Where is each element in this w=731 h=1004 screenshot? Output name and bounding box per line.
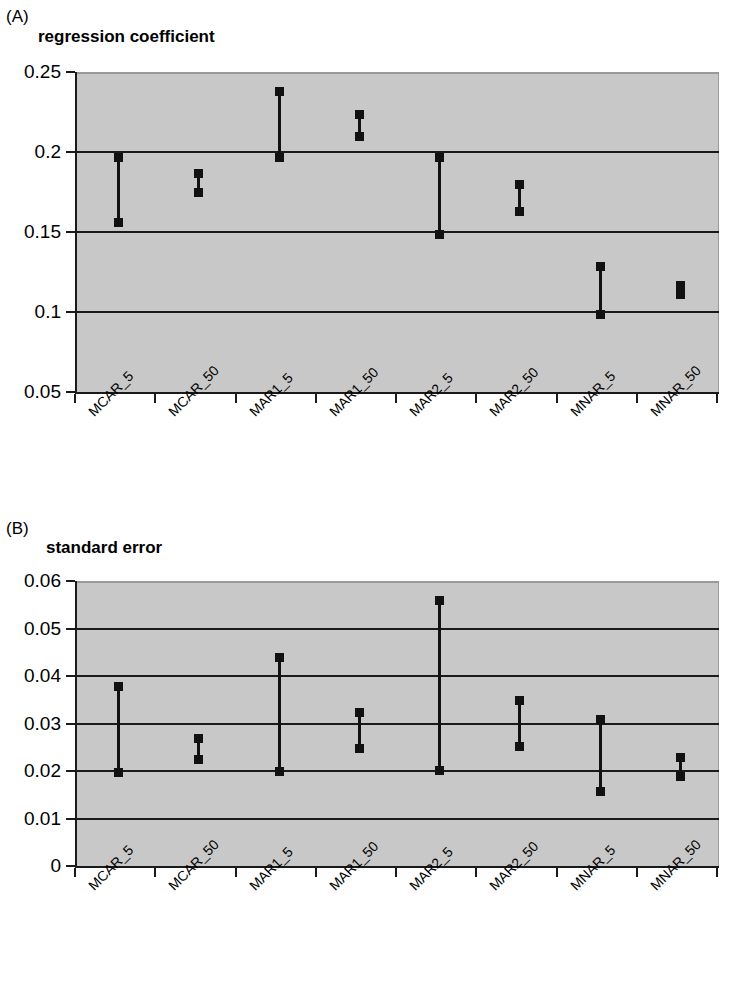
upper-marker [275, 87, 284, 96]
y-axis-tick-label: 0.15 [0, 222, 61, 241]
x-axis-tick-mark [395, 394, 397, 403]
y-axis-tick-mark [66, 580, 75, 582]
x-axis-tick-mark [154, 868, 156, 877]
plot-area-a [75, 72, 719, 394]
gridline [77, 151, 719, 153]
y-axis-tick-label: 0.05 [0, 382, 61, 401]
plot-area-b [75, 581, 719, 868]
gridline [77, 231, 719, 233]
x-axis-tick-mark [716, 868, 718, 877]
gridline [77, 818, 719, 820]
lower-marker [676, 772, 685, 781]
lower-marker [515, 207, 524, 216]
y-axis-tick-mark [66, 71, 75, 73]
panel-a: (A) regression coefficient 0.050.10.150.… [0, 0, 731, 505]
x-axis-tick-mark [315, 868, 317, 877]
lower-marker [194, 188, 203, 197]
lower-marker [275, 767, 284, 776]
y-axis-tick-label: 0.05 [0, 619, 61, 638]
range-stem [438, 600, 441, 770]
range-stem [518, 700, 521, 747]
x-axis-tick-mark [74, 394, 76, 403]
x-axis-tick-mark [475, 868, 477, 877]
range-stem [599, 266, 602, 314]
y-axis-tick-mark [66, 391, 75, 393]
lower-marker [515, 742, 524, 751]
gridline [77, 628, 719, 630]
upper-marker [435, 153, 444, 162]
y-axis-tick-label: 0.04 [0, 666, 61, 685]
lower-marker [676, 290, 685, 299]
x-axis-tick-mark [235, 394, 237, 403]
upper-marker [194, 169, 203, 178]
upper-marker [515, 180, 524, 189]
y-axis-tick-label: 0.2 [0, 142, 61, 161]
y-axis-tick-label: 0.02 [0, 761, 61, 780]
lower-marker [114, 218, 123, 227]
upper-marker [275, 653, 284, 662]
lower-marker [114, 768, 123, 777]
x-axis-tick-mark [636, 868, 638, 877]
panel-a-title: regression coefficient [38, 27, 215, 47]
upper-marker [676, 753, 685, 762]
y-axis-tick-label: 0.1 [0, 302, 61, 321]
lower-marker [435, 230, 444, 239]
y-axis-tick-mark [66, 675, 75, 677]
y-axis-tick-mark [66, 865, 75, 867]
y-axis-tick-mark [66, 311, 75, 313]
range-stem [278, 657, 281, 771]
x-axis-tick-mark [235, 868, 237, 877]
gridline [77, 770, 719, 772]
lower-marker [194, 755, 203, 764]
y-axis-tick-mark [66, 151, 75, 153]
range-stem [438, 157, 441, 234]
panel-a-letter: (A) [6, 7, 29, 27]
y-axis-tick-label: 0.03 [0, 714, 61, 733]
upper-marker [355, 708, 364, 717]
upper-marker [194, 734, 203, 743]
range-stem [358, 712, 361, 749]
x-axis-tick-mark [315, 394, 317, 403]
y-axis-tick-mark [66, 818, 75, 820]
range-stem [599, 719, 602, 791]
y-axis-tick-label: 0.01 [0, 809, 61, 828]
y-axis-tick-mark [66, 770, 75, 772]
panel-b-letter: (B) [6, 519, 29, 539]
gridline [77, 311, 719, 313]
range-stem [117, 686, 120, 772]
lower-marker [596, 787, 605, 796]
x-axis-tick-mark [475, 394, 477, 403]
plot-top-border-b [77, 581, 719, 583]
plot-top-border-a [77, 72, 719, 74]
x-axis-tick-mark [636, 394, 638, 403]
x-axis-tick-mark [556, 868, 558, 877]
upper-marker [676, 281, 685, 290]
x-axis-tick-mark [74, 868, 76, 877]
panel-b: (B) standard error 00.010.020.030.040.05… [0, 508, 731, 1004]
lower-marker [355, 132, 364, 141]
y-axis-tick-mark [66, 723, 75, 725]
range-stem [278, 91, 281, 157]
lower-marker [355, 744, 364, 753]
upper-marker [355, 110, 364, 119]
upper-marker [114, 153, 123, 162]
y-axis-tick-mark [66, 231, 75, 233]
upper-marker [596, 715, 605, 724]
y-axis-tick-label: 0.25 [0, 62, 61, 81]
panel-b-title: standard error [46, 538, 162, 558]
gridline [77, 723, 719, 725]
y-axis-tick-mark [66, 628, 75, 630]
x-axis-tick-mark [716, 394, 718, 403]
x-axis-tick-mark [556, 394, 558, 403]
x-axis-tick-mark [154, 394, 156, 403]
y-axis-tick-label: 0 [0, 856, 61, 875]
upper-marker [515, 696, 524, 705]
lower-marker [596, 310, 605, 319]
upper-marker [435, 596, 444, 605]
range-stem [117, 157, 120, 223]
gridline [77, 675, 719, 677]
x-axis-tick-mark [395, 868, 397, 877]
lower-marker [275, 153, 284, 162]
upper-marker [596, 262, 605, 271]
upper-marker [114, 682, 123, 691]
